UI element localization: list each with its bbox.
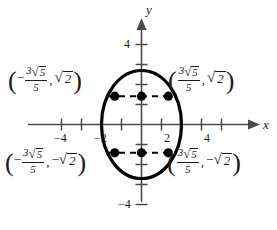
y-axis xyxy=(137,18,147,202)
x-radical-tl: √5 xyxy=(32,65,47,79)
coordinate-label-bottom-right: ( 3 √5 5 , − √2 ) xyxy=(167,146,241,174)
comma-bl: , xyxy=(45,155,51,168)
x-radicand-tl: 5 xyxy=(39,66,47,79)
point-top-left xyxy=(110,92,119,101)
y-radical-br: √2 xyxy=(213,152,232,168)
coordinate-plane-figure xyxy=(0,0,277,230)
y-radicand-tr: 2 xyxy=(215,71,226,86)
comma-tr: , xyxy=(201,73,207,86)
x-sign-bl: − xyxy=(14,153,21,166)
radical-icon: √ xyxy=(183,147,190,160)
radical-icon: √ xyxy=(32,65,39,78)
radical-icon: √ xyxy=(54,70,62,85)
point-top-center xyxy=(137,92,146,101)
x-denominator-bl: 5 xyxy=(30,163,36,175)
radical-icon: √ xyxy=(29,147,36,160)
x-radicand-tr: 5 xyxy=(191,66,199,79)
comma-br: , xyxy=(200,155,206,168)
y-tick-label-neg4: −4 xyxy=(118,198,131,210)
y-radicand-tl: 2 xyxy=(63,71,74,86)
x-sign-tl: − xyxy=(17,71,24,84)
x-denominator-tr: 5 xyxy=(186,81,192,93)
x-fraction-tl: 3 √5 5 xyxy=(25,65,47,93)
x-fraction-br: 3 √5 5 xyxy=(177,147,199,175)
x-axis xyxy=(28,120,260,130)
y-radicand-bl: 2 xyxy=(67,153,78,168)
x-radical-bl: √5 xyxy=(29,147,44,161)
x-denominator-br: 5 xyxy=(185,163,191,175)
y-sign-bl: − xyxy=(51,153,58,166)
x-tick-label-2: 2 xyxy=(164,132,170,144)
coordinate-label-top-left: ( − 3 √5 5 , √2 ) xyxy=(8,64,82,92)
x-radical-tr: √5 xyxy=(184,65,199,79)
x-radical-br: √5 xyxy=(183,147,198,161)
radical-icon: √ xyxy=(59,152,67,167)
coordinate-label-top-right: ( 3 √5 5 , √2 ) xyxy=(168,64,234,92)
point-bottom-center xyxy=(137,148,146,157)
x-tick-label-neg4: −4 xyxy=(54,132,67,144)
y-radical-tl: √2 xyxy=(54,70,73,86)
x-fraction-tr: 3 √5 5 xyxy=(178,65,200,93)
y-radical-tr: √2 xyxy=(207,70,226,86)
x-tick-label-neg2: −2 xyxy=(94,132,107,144)
y-axis-label: y xyxy=(146,3,152,16)
x-tick-label-4: 4 xyxy=(204,132,210,144)
x-radicand-br: 5 xyxy=(190,148,198,161)
radical-icon: √ xyxy=(213,152,221,167)
radical-icon: √ xyxy=(207,70,215,85)
x-denominator-tl: 5 xyxy=(33,81,39,93)
x-axis-label: x xyxy=(263,118,269,131)
y-radicand-br: 2 xyxy=(222,153,233,168)
x-fraction-bl: 3 √5 5 xyxy=(22,147,44,175)
y-sign-br: − xyxy=(206,153,213,166)
point-bottom-left xyxy=(110,148,119,157)
radical-icon: √ xyxy=(184,65,191,78)
coordinate-label-bottom-left: ( − 3 √5 5 , − √2 ) xyxy=(5,146,86,174)
y-radical-bl: √2 xyxy=(59,152,78,168)
comma-tl: , xyxy=(48,73,54,86)
x-radicand-bl: 5 xyxy=(36,148,44,161)
y-tick-label-4: 4 xyxy=(124,38,130,50)
